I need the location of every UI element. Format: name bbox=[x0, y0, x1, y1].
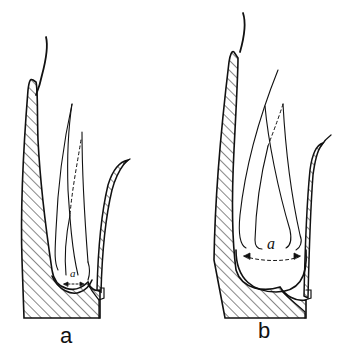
panel-b-inner-leaf-dashed bbox=[268, 104, 283, 146]
panel-a-inner-leaf-3 bbox=[82, 132, 88, 262]
diagram-svg bbox=[0, 0, 346, 360]
panel-b-inner-leaf-1 bbox=[239, 70, 278, 248]
panel-b-dimension-label: a bbox=[267, 236, 275, 252]
panel-a-right-sheath bbox=[97, 160, 128, 292]
panel-b-dimension-arrow bbox=[244, 256, 300, 261]
panel-a-label: a bbox=[60, 325, 72, 347]
panel-b-right-sheath bbox=[304, 143, 323, 298]
panel-a-leaf-tip bbox=[36, 37, 47, 95]
figure: a a a b bbox=[0, 0, 346, 360]
panel-b-inner-leaf-2 bbox=[265, 106, 291, 248]
panel-a-dimension-label: a bbox=[70, 268, 76, 279]
panel-b-inner-leaf-3 bbox=[283, 104, 301, 250]
panel-b-label: b bbox=[258, 320, 270, 342]
panel-a-outer-sheath bbox=[21, 79, 100, 318]
panel-a-inner-leaf-dashed bbox=[70, 140, 81, 215]
panel-b bbox=[214, 13, 331, 318]
panel-b-leaf-tip bbox=[240, 13, 244, 52]
